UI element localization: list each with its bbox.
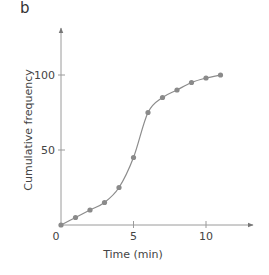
data-point: [203, 75, 208, 80]
data-points: [58, 72, 223, 227]
data-point: [160, 95, 165, 100]
data-curve: [61, 75, 221, 225]
data-point: [189, 80, 194, 85]
data-point: [102, 200, 107, 205]
axes: [61, 28, 253, 225]
y-tick-label: 50: [41, 144, 55, 157]
data-point: [174, 87, 179, 92]
data-point: [116, 185, 121, 190]
y-tick-label: 100: [34, 69, 55, 82]
data-point: [218, 72, 223, 77]
data-point: [73, 215, 78, 220]
data-point: [131, 155, 136, 160]
data-point: [145, 110, 150, 115]
x-axis-title: Time (min): [102, 248, 163, 261]
y-axis-title: Cumulative frequency: [22, 69, 35, 191]
x-tick-label: 0: [53, 230, 60, 243]
x-tick-label: 5: [130, 230, 137, 243]
x-tick-label: 10: [199, 230, 213, 243]
cumulative-frequency-chart: 051050100 Time (min) Cumulative frequenc…: [0, 0, 269, 275]
data-point: [58, 222, 63, 227]
ticks: [58, 75, 206, 228]
data-point: [87, 207, 92, 212]
